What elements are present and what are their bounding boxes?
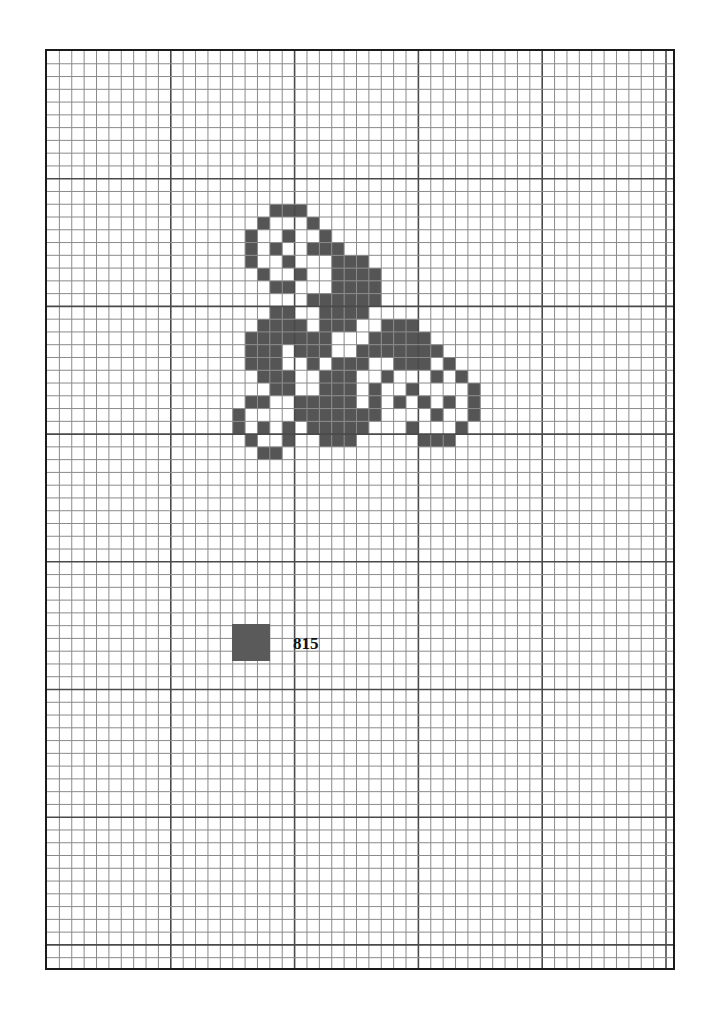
legend-swatch-815 <box>232 624 270 661</box>
legend-label: 815 <box>293 634 319 654</box>
pattern-grid <box>47 51 675 970</box>
cross-stitch-grid <box>45 49 675 970</box>
